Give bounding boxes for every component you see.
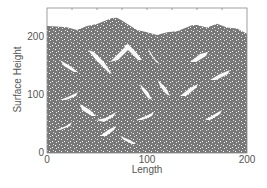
x-tick-label: 200 bbox=[232, 154, 262, 165]
deposit-layer bbox=[47, 18, 247, 153]
ballistic-deposition-chart: 200 100 0 0 100 200 Length Surface Heigh… bbox=[0, 0, 267, 188]
x-tick-label: 0 bbox=[32, 154, 62, 165]
x-axis-label: Length bbox=[127, 164, 167, 175]
deposit-surface bbox=[47, 18, 247, 153]
y-axis-label: Surface Height bbox=[12, 35, 23, 125]
